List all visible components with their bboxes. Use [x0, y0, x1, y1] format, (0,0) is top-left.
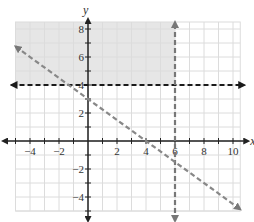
y-axis-label: y	[82, 3, 89, 17]
x-tick-label: −4	[24, 145, 36, 157]
y-tick-label: −4	[72, 191, 84, 203]
y-tick-label: 2	[79, 107, 85, 119]
x-tick-label: 8	[201, 145, 207, 157]
y-tick-label: −2	[72, 163, 84, 175]
y-tick-label: 6	[79, 51, 85, 63]
x-axis-label: x	[249, 134, 254, 148]
x-tick-label: −2	[53, 145, 65, 157]
x-tick-label: 10	[228, 145, 240, 157]
x-tick-label: 4	[143, 145, 149, 157]
y-tick-label: 8	[79, 23, 85, 35]
shaded-region	[16, 22, 176, 85]
inequality-graph: −4−2246810−4−22468xy	[0, 0, 254, 222]
x-tick-label: 2	[114, 145, 120, 157]
